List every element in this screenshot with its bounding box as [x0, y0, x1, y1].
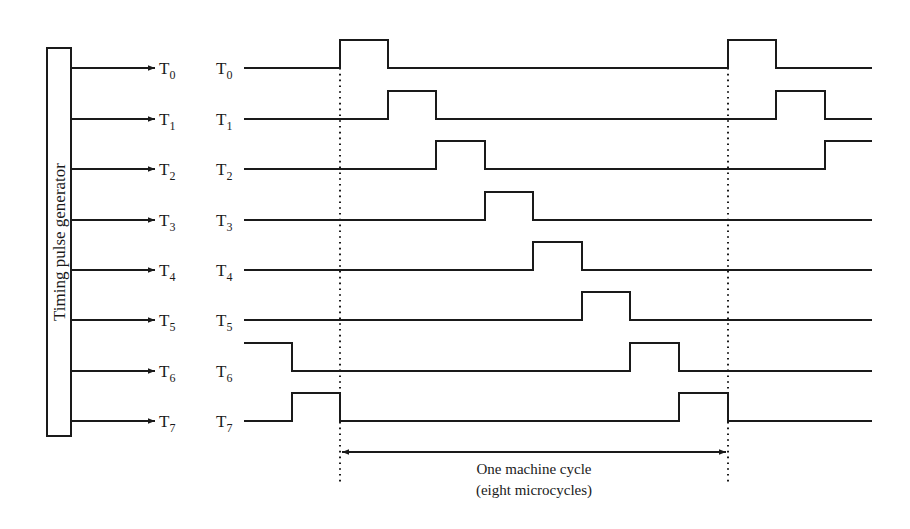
waveform-t3 — [244, 192, 872, 220]
waveform-label-t1: T1 — [216, 110, 232, 133]
waveform-label-t6: T6 — [216, 362, 232, 385]
output-label-t2: T2 — [159, 160, 175, 183]
output-label-t3: T3 — [159, 211, 175, 234]
output-label-t4: T4 — [159, 261, 175, 284]
waveforms: T0T1T2T3T4T5T6T7 — [216, 40, 872, 435]
waveform-t4 — [244, 242, 872, 270]
waveform-t5 — [244, 292, 872, 320]
waveform-t6 — [244, 343, 872, 371]
waveform-label-t2: T2 — [216, 160, 232, 183]
waveform-label-t3: T3 — [216, 211, 232, 234]
waveform-label-t0: T0 — [216, 59, 232, 82]
waveform-t0 — [244, 40, 872, 68]
microcycles-label: (eight microcycles) — [476, 482, 592, 499]
waveform-t1 — [244, 91, 872, 119]
machine-cycle-label: One machine cycle — [477, 461, 592, 477]
waveform-t7 — [244, 393, 872, 421]
generator-label: Timing pulse generator — [50, 163, 69, 321]
output-label-t5: T5 — [159, 311, 175, 334]
output-label-t1: T1 — [159, 110, 175, 133]
waveform-label-t7: T7 — [216, 412, 232, 435]
output-label-t0: T0 — [159, 59, 175, 82]
waveform-label-t4: T4 — [216, 261, 232, 284]
waveform-label-t5: T5 — [216, 311, 232, 334]
generator-outputs: T0T1T2T3T4T5T6T7 — [71, 59, 175, 435]
waveform-t2 — [244, 141, 872, 169]
output-label-t6: T6 — [159, 362, 175, 385]
output-label-t7: T7 — [159, 412, 175, 435]
timing-pulse-generator: Timing pulse generator — [47, 48, 71, 436]
timing-diagram: Timing pulse generator T0T1T2T3T4T5T6T7 … — [0, 0, 910, 529]
